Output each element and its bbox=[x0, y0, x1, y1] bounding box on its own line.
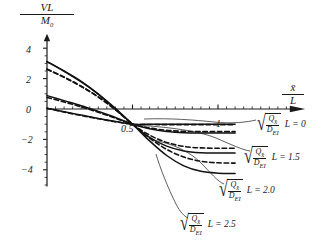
x-tick-label-1: 1 bbox=[216, 118, 221, 129]
chart-series-line bbox=[47, 108, 235, 124]
radical-sign-icon: √ bbox=[180, 213, 189, 235]
x-axis-label-numerator: x̄ bbox=[282, 82, 304, 95]
legend-item-0: √ Qx̄ DEI L = 0 bbox=[257, 112, 306, 136]
legend-equation: L = 2.5 bbox=[208, 219, 236, 229]
radical-sign-icon: √ bbox=[219, 179, 228, 201]
y-tick-label-0: 0 bbox=[26, 104, 31, 115]
y-tick-label-2: 2 bbox=[26, 74, 31, 85]
legend-fraction: Qx̄ DEI bbox=[265, 115, 281, 136]
radical-sign-icon: √ bbox=[257, 113, 266, 135]
legend-fraction: Qx̄ DEI bbox=[188, 215, 204, 236]
y-tick-label-minus-2: −2 bbox=[21, 134, 33, 145]
chart-series-line bbox=[47, 69, 235, 163]
y-axis-label-denominator: M0 bbox=[20, 15, 74, 29]
radical-sign-icon: √ bbox=[244, 146, 253, 168]
chart-figure: VL M0 x̄ L 0.5 1 4 2 0 −2 −4 √ Qx̄ DEI L… bbox=[0, 0, 334, 248]
x-tick-label-0-5: 0.5 bbox=[121, 123, 134, 134]
y-tick-label-4: 4 bbox=[26, 44, 31, 55]
legend-equation: L = 1.5 bbox=[272, 152, 300, 162]
legend-leader-line bbox=[156, 154, 188, 218]
chart-series-line bbox=[47, 108, 235, 124]
legend-equation: L = 0 bbox=[285, 119, 306, 129]
legend-item-1: √ Qx̄ DEI L = 1.5 bbox=[244, 145, 300, 169]
curve-layer bbox=[47, 62, 235, 174]
legend-fraction: Qx̄ DEI bbox=[252, 148, 268, 169]
legend-item-2: √ Qx̄ DEI L = 2.0 bbox=[219, 178, 275, 202]
y-tick-label-minus-4: −4 bbox=[21, 164, 33, 175]
legend-fraction: Qx̄ DEI bbox=[227, 181, 243, 202]
legend-item-3: √ Qx̄ DEI L = 2.5 bbox=[180, 212, 236, 236]
legend-equation: L = 2.0 bbox=[247, 185, 275, 195]
x-axis-label: x̄ L bbox=[282, 82, 304, 106]
chart-series-line bbox=[47, 62, 235, 174]
x-axis-label-denominator: L bbox=[282, 95, 304, 107]
y-axis-label: VL M0 bbox=[20, 2, 74, 29]
legend-leader-line bbox=[144, 119, 256, 123]
